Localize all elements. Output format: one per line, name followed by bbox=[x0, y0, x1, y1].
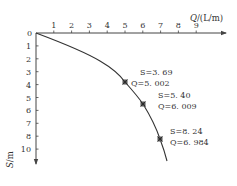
y-tick-label: 7 bbox=[26, 119, 31, 128]
y-axis-label: S/m bbox=[5, 151, 15, 168]
x-tick-label: 1 bbox=[51, 21, 56, 30]
qs-curve-chart: 123456789 1234567810 0 Q/(L/m) S/m S=3. … bbox=[0, 0, 237, 186]
annotation-3-s: S=8. 24 bbox=[170, 127, 203, 136]
annotation-2-s: S=5. 40 bbox=[158, 91, 191, 100]
x-tick-label: 6 bbox=[140, 21, 145, 30]
annotation-2-q: Q=6. 009 bbox=[158, 102, 197, 111]
y-tick-label: 6 bbox=[26, 106, 31, 115]
x-tick-label: 3 bbox=[87, 21, 92, 30]
qs-curve bbox=[36, 33, 167, 161]
x-tick-label: 8 bbox=[176, 21, 181, 30]
x-axis-label: Q/(L/m) bbox=[190, 13, 223, 23]
y-tick-label: 10 bbox=[21, 145, 31, 154]
x-tick-label: 7 bbox=[158, 21, 163, 30]
data-marker bbox=[158, 137, 163, 142]
y-tick-label: 1 bbox=[26, 42, 31, 51]
y-tick-label: 8 bbox=[26, 132, 31, 141]
annotation-1-q: Q=5. 002 bbox=[131, 79, 170, 88]
x-tick-label: 2 bbox=[69, 21, 74, 30]
x-ticks: 123456789 bbox=[51, 21, 198, 33]
data-marker bbox=[141, 102, 146, 107]
origin-label: 0 bbox=[27, 29, 32, 38]
y-tick-label: 5 bbox=[26, 94, 31, 103]
y-tick-label: 4 bbox=[26, 81, 31, 90]
x-axis-label-unit: /(L/m) bbox=[197, 13, 223, 23]
y-axis-label-unit: /m bbox=[5, 151, 15, 162]
x-tick-label: 5 bbox=[122, 21, 127, 30]
x-tick-label: 4 bbox=[105, 21, 110, 30]
y-tick-label: 3 bbox=[26, 68, 31, 77]
x-axis-label-q: Q bbox=[190, 13, 197, 23]
annotation-3-q: Q=6. 984 bbox=[170, 138, 209, 147]
data-marker bbox=[123, 80, 128, 85]
y-tick-label: 2 bbox=[26, 55, 31, 64]
annotation-1-s: S=3. 69 bbox=[140, 68, 173, 77]
